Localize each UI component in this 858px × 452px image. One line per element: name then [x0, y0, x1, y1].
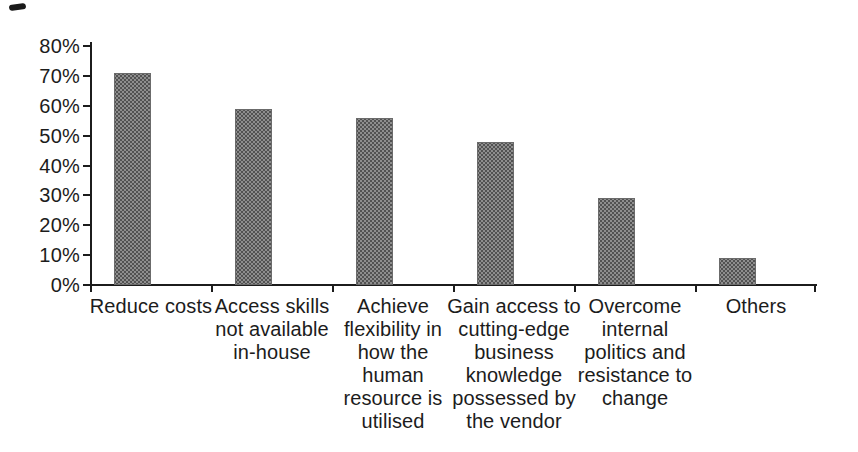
y-tick-label: 80%: [18, 35, 80, 58]
x-category-label-3: Achieve flexibility in how the human res…: [326, 295, 460, 433]
bar-3: [356, 118, 393, 285]
y-tick-label: 50%: [18, 124, 80, 147]
y-tick-label: 70%: [18, 64, 80, 87]
y-tick-label: 10%: [18, 244, 80, 267]
x-category-label-6: Others: [689, 295, 823, 318]
scan-ink-mark: [9, 3, 27, 11]
y-tick-mark: [83, 254, 90, 256]
y-tick-mark: [83, 75, 90, 77]
y-tick-mark: [83, 165, 90, 167]
x-tick-mark: [695, 285, 697, 292]
bar-4: [477, 142, 514, 285]
x-tick-mark: [332, 285, 334, 292]
y-tick-mark: [83, 105, 90, 107]
y-tick-mark: [83, 224, 90, 226]
bar-6: [719, 258, 756, 285]
x-category-label-5: Overcome internal politics and resistanc…: [568, 295, 702, 410]
y-tick-mark: [83, 284, 90, 286]
y-tick-label: 40%: [18, 154, 80, 177]
y-tick-label: 30%: [18, 184, 80, 207]
y-tick-mark: [83, 135, 90, 137]
x-tick-mark: [90, 285, 92, 292]
bar-chart-figure: 0%10%20%30%40%50%60%70%80%Reduce costsAc…: [0, 0, 858, 452]
y-tick-label: 60%: [18, 94, 80, 117]
bar-1: [114, 73, 151, 285]
y-tick-mark: [83, 194, 90, 196]
x-category-label-4: Gain access to cutting-edge business kno…: [447, 295, 581, 433]
y-axis-line: [90, 42, 92, 286]
x-category-label-2: Access skills not available in-house: [205, 295, 339, 364]
x-tick-mark: [574, 285, 576, 292]
x-category-label-1: Reduce costs: [84, 295, 218, 318]
y-tick-label: 20%: [18, 214, 80, 237]
bar-5: [598, 198, 635, 285]
bar-2: [235, 109, 272, 285]
y-tick-label: 0%: [18, 274, 80, 297]
x-tick-mark: [453, 285, 455, 292]
x-tick-mark: [814, 285, 816, 292]
y-tick-mark: [83, 45, 90, 47]
x-tick-mark: [211, 285, 213, 292]
